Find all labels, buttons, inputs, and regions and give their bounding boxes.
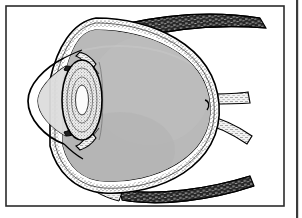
eye-cross-section-illustration <box>0 0 302 218</box>
page-edge-artifact <box>296 0 298 218</box>
lens-nucleus <box>76 85 89 115</box>
figure-page <box>0 0 302 218</box>
crystalline-lens <box>62 60 102 140</box>
